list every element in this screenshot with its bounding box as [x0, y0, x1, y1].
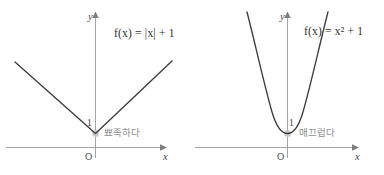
y-intercept-tick-label: 1 [87, 119, 92, 129]
shape-annotation-smooth: 매끄럽다 [299, 128, 335, 138]
y-axis-arrow-icon [284, 12, 290, 19]
absolute-value-curve [15, 61, 172, 134]
graph-panel-absolute-value: f(x) = |x| + 1 y x O 1 뾰족하다 [0, 0, 192, 175]
x-axis-label: x [355, 152, 360, 163]
y-intercept-tick-label: 1 [289, 119, 294, 129]
function-formula-label: f(x) = x² + 1 [304, 26, 363, 38]
y-axis-label: y [88, 12, 93, 23]
origin-label: O [277, 152, 284, 162]
origin-label: O [85, 152, 92, 162]
shape-annotation-pointed: 뾰족하다 [104, 128, 140, 138]
graph-panel-quadratic: f(x) = x² + 1 y x O 1 매끄럽다 [192, 0, 384, 175]
y-axis-label: y [280, 12, 285, 23]
x-axis-label: x [163, 152, 168, 163]
x-axis-arrow-icon [160, 144, 167, 150]
figure-root: f(x) = |x| + 1 y x O 1 뾰족하다 f(x) = x² + … [0, 0, 384, 175]
x-axis-arrow-icon [352, 144, 359, 150]
y-axis-arrow-icon [92, 12, 98, 19]
function-formula-label: f(x) = |x| + 1 [114, 28, 175, 40]
